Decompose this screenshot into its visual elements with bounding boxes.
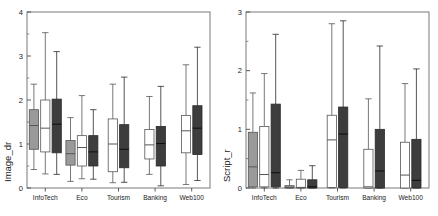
boxplot-box bbox=[248, 93, 257, 188]
box-iqr bbox=[248, 132, 257, 187]
y-tick-label: 0 bbox=[238, 184, 242, 193]
boxplot-box bbox=[296, 170, 305, 188]
y-tick-label: 3 bbox=[238, 8, 242, 17]
boxplot-box bbox=[375, 46, 384, 188]
x-category-label: Eco bbox=[295, 194, 307, 201]
y-tick-label: 3 bbox=[19, 52, 23, 61]
box-iqr bbox=[52, 99, 61, 153]
box-iqr bbox=[327, 115, 336, 187]
box-iqr bbox=[156, 126, 165, 166]
boxplot-box bbox=[120, 77, 129, 182]
boxplot-box bbox=[156, 86, 165, 185]
boxplot-box bbox=[308, 166, 317, 188]
box-iqr bbox=[375, 129, 384, 188]
box-iqr bbox=[296, 179, 305, 188]
x-category-label: Web100 bbox=[398, 194, 423, 201]
y-tick-label: 4 bbox=[19, 8, 23, 17]
boxplot-box bbox=[181, 65, 190, 185]
box-iqr bbox=[77, 136, 86, 166]
x-category-label: Tourism bbox=[107, 194, 131, 201]
boxplot-box bbox=[89, 110, 98, 180]
boxplot-box bbox=[260, 74, 269, 188]
box-iqr bbox=[108, 119, 117, 172]
boxplot-box bbox=[271, 34, 280, 188]
y-tick-label: 2 bbox=[19, 96, 23, 105]
boxplot-box bbox=[52, 52, 61, 175]
boxplot-box bbox=[364, 99, 373, 188]
box-iqr bbox=[29, 110, 38, 150]
boxplot-image-dr: 01234Image_drInfoTechEcoTourismBankingWe… bbox=[0, 0, 219, 216]
boxplot-box bbox=[29, 84, 38, 169]
box-iqr bbox=[400, 142, 409, 188]
boxplot-box bbox=[41, 33, 50, 174]
boxplot-script-r: 0123Script_rInfoTechEcoTourismBankingWeb… bbox=[219, 0, 438, 216]
y-tick-label: 2 bbox=[238, 66, 242, 75]
boxplot-box bbox=[108, 84, 117, 183]
boxplot-box bbox=[145, 96, 154, 174]
box-iqr bbox=[41, 100, 50, 152]
y-tick-label: 0 bbox=[19, 184, 23, 193]
y-tick-label: 1 bbox=[238, 125, 242, 134]
x-category-label: Eco bbox=[76, 194, 88, 201]
box-iqr bbox=[193, 106, 202, 155]
chart-panel-script-r: 0123Script_rInfoTechEcoTourismBankingWeb… bbox=[219, 0, 438, 216]
box-iqr bbox=[89, 136, 98, 166]
box-iqr bbox=[339, 107, 348, 187]
y-tick-label: 1 bbox=[19, 140, 23, 149]
x-category-label: Banking bbox=[143, 194, 167, 202]
box-iqr bbox=[364, 149, 373, 188]
chart-panel-image-dr: 01234Image_drInfoTechEcoTourismBankingWe… bbox=[0, 0, 219, 216]
box-iqr bbox=[66, 140, 75, 165]
box-iqr bbox=[120, 125, 129, 168]
box-iqr bbox=[181, 115, 190, 152]
figure-root: 01234Image_drInfoTechEcoTourismBankingWe… bbox=[0, 0, 438, 216]
x-category-label: Web100 bbox=[179, 194, 204, 201]
y-axis-label: Script_r bbox=[221, 149, 232, 182]
box-iqr bbox=[271, 104, 280, 187]
boxplot-box bbox=[285, 180, 294, 188]
x-category-label: Banking bbox=[362, 194, 386, 202]
y-axis-label: Image_dr bbox=[2, 142, 13, 182]
x-category-label: InfoTech bbox=[33, 194, 58, 201]
boxplot-box bbox=[327, 24, 336, 188]
box-iqr bbox=[260, 126, 269, 186]
boxplot-box bbox=[66, 118, 75, 182]
x-category-label: Tourism bbox=[326, 194, 350, 201]
boxplot-box bbox=[339, 21, 348, 188]
boxplot-box bbox=[412, 69, 421, 188]
boxplot-box bbox=[193, 47, 202, 180]
x-category-label: InfoTech bbox=[252, 194, 277, 201]
box-iqr bbox=[145, 129, 154, 158]
boxplot-box bbox=[400, 84, 409, 188]
boxplot-box bbox=[77, 96, 86, 179]
